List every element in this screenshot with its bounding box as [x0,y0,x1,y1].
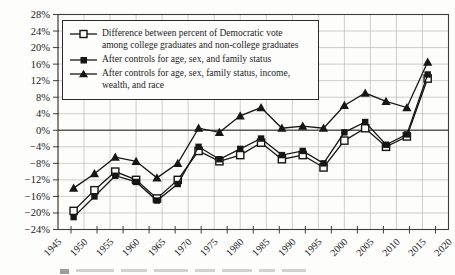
data-point-square-filled [279,152,285,158]
data-point-triangle-filled [256,103,265,111]
y-axis-label: 28% [31,9,51,20]
x-axis-label: 2020 [432,236,454,258]
data-point-square-filled [320,160,326,166]
x-axis-label: 2010 [380,236,402,258]
data-point-triangle-filled [423,57,432,65]
data-point-square-filled [424,71,430,77]
data-point-square-filled [91,193,97,199]
data-point-square-filled [362,119,368,125]
legend-item-controls-family: After controls for age, sex, and family … [70,54,310,66]
y-axis-label: 24% [31,26,51,37]
data-point-square-filled [300,148,306,154]
data-point-square-filled [383,142,389,148]
y-axis-label: −12% [25,174,50,185]
y-axis-label: 4% [36,108,50,119]
data-point-triangle-filled [236,111,245,119]
data-point-triangle-filled [173,159,182,167]
data-point-triangle-filled [69,184,78,192]
cropped-caption-fragments [60,269,360,275]
open-square-marker-icon [70,29,97,39]
data-point-square-open [237,151,244,158]
filled-square-marker-icon [70,55,97,65]
data-point-square-filled [133,179,139,185]
data-point-triangle-filled [111,153,120,161]
legend-label-controls-family: After controls for age, sex, and family … [102,54,271,66]
data-point-square-filled [216,156,222,162]
data-point-square-open [91,187,98,194]
x-axis-label: 1995 [302,236,324,258]
x-axis-label: 1945 [41,236,63,258]
x-axis-label: 1985 [250,236,272,258]
x-axis-label: 1950 [68,236,90,258]
data-point-triangle-filled [340,101,349,109]
y-axis-label: 16% [31,59,51,70]
data-point-triangle-filled [381,97,390,105]
data-point-square-open [70,207,77,214]
data-point-square-filled [112,173,118,179]
x-axis-label: 1955 [94,236,116,258]
legend-label-controls-full: After controls for age, sex, family stat… [102,68,310,92]
y-axis-label: 0% [36,125,50,136]
data-point-triangle-filled [298,122,307,130]
data-point-square-filled [154,197,160,203]
data-point-square-filled [195,144,201,150]
x-axis-label: 1965 [146,236,168,258]
x-axis-label: 1960 [120,236,142,258]
y-axis-label: −8% [30,158,50,169]
data-point-square-open [341,137,348,144]
data-point-square-filled [237,146,243,152]
y-axis-label: −24% [25,224,50,235]
x-axis-label: 1975 [198,236,220,258]
filled-triangle-marker-icon [70,69,97,79]
figure: 28%24%20%16%12%8%4%0%−4%−8%−12%−16%−20%−… [0,0,455,275]
chart-legend: Difference between percent of Democratic… [62,20,319,100]
x-axis-label: 1970 [172,236,194,258]
y-axis-label: 20% [31,42,51,53]
y-axis-label: −4% [30,141,50,152]
y-axis-label: −16% [25,191,50,202]
legend-item-controls-full: After controls for age, sex, family stat… [70,68,310,92]
x-axis-label: 2015 [406,236,428,258]
data-point-square-filled [258,135,264,141]
data-point-triangle-filled [194,124,203,132]
x-axis-label: 2000 [328,236,350,258]
data-point-square-filled [175,181,181,187]
y-axis-label: 8% [36,92,50,103]
data-point-square-filled [70,214,76,220]
y-axis-label: −20% [25,207,50,218]
y-axis-label: 12% [31,75,51,86]
data-point-triangle-filled [361,88,370,96]
x-axis-label: 1990 [276,236,298,258]
data-point-square-filled [341,129,347,135]
legend-item-difference: Difference between percent of Democratic… [70,28,310,52]
legend-label-difference: Difference between percent of Democratic… [102,28,310,52]
x-axis-label: 2005 [354,236,376,258]
x-axis-label: 1980 [224,236,246,258]
data-point-square-filled [404,131,410,137]
